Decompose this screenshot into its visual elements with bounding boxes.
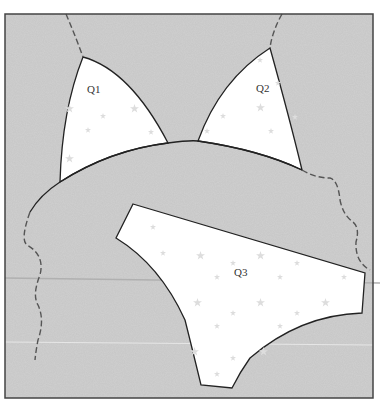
pattern-diagram: Q1 Q2	[0, 0, 380, 404]
piece-q3-label: Q3	[234, 266, 248, 278]
piece-q2-label: Q2	[256, 82, 269, 94]
piece-q1-label: Q1	[87, 83, 100, 95]
background-texture	[5, 14, 373, 398]
